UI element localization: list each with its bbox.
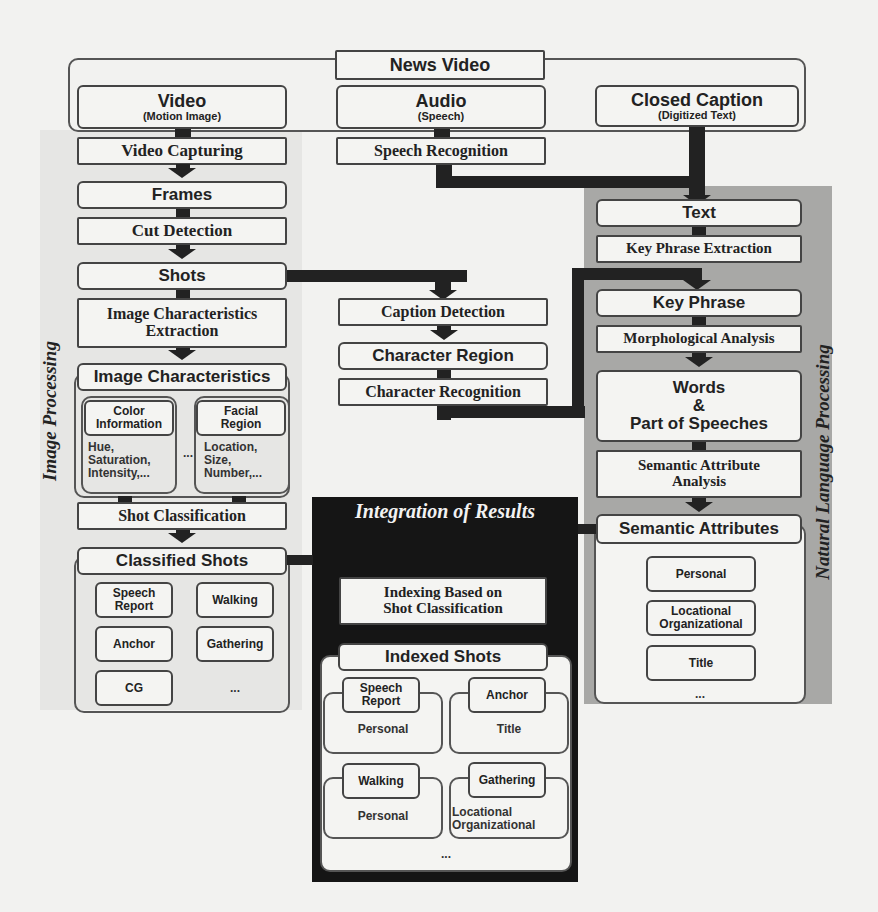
- class-cg: CG: [95, 670, 173, 706]
- classified-shots-label: Classified Shots: [116, 552, 248, 570]
- attr-personal: Personal: [646, 556, 756, 592]
- cg-label: CG: [125, 682, 143, 695]
- key-phrase-label: Key Phrase: [653, 294, 746, 312]
- words-pos-box: Words & Part of Speeches: [596, 370, 802, 442]
- walking-label: Walking: [212, 594, 258, 607]
- image-processing-label: Image Processing: [39, 331, 65, 491]
- facial-line2: Region: [221, 418, 262, 431]
- morphological-analysis-label: Morphological Analysis: [623, 331, 774, 347]
- indexed-shots-label: Indexed Shots: [385, 648, 501, 666]
- saa-line1: Semantic Attribute: [638, 458, 760, 474]
- frames-box: Frames: [77, 181, 287, 209]
- video-title: Video: [158, 92, 207, 111]
- closed-caption-subtitle: (Digitized Text): [658, 110, 736, 122]
- indexing-line2: Shot Classification: [383, 601, 503, 617]
- audio-title: Audio: [416, 92, 467, 111]
- speech-recognition-box: Speech Recognition: [336, 137, 546, 165]
- text-label: Text: [682, 204, 716, 222]
- indexed-tag-anchor-label: Anchor: [486, 689, 528, 702]
- attr-title: Title: [646, 645, 756, 681]
- arrow-to-shots: [168, 249, 196, 259]
- class-anchor: Anchor: [95, 626, 173, 662]
- attr-title-label: Title: [689, 657, 713, 670]
- indexed-tag-speech-report: Speech Report: [342, 677, 420, 713]
- class-speech-report: Speech Report: [95, 582, 173, 618]
- news-video-box: News Video: [335, 50, 545, 80]
- connector-crec-kp-h2: [572, 268, 702, 280]
- shot-classification-box: Shot Classification: [77, 502, 287, 530]
- ice-line2: Extraction: [146, 323, 219, 340]
- indexed-tag-walking: Walking: [342, 763, 420, 799]
- closed-caption-box: Closed Caption (Digitized Text): [595, 85, 799, 127]
- character-recognition-box: Character Recognition: [338, 378, 548, 406]
- key-phrase-box: Key Phrase: [596, 289, 802, 317]
- speech-recognition-label: Speech Recognition: [374, 143, 508, 160]
- connector-cr-crec: [437, 370, 451, 378]
- connector-audio-speech: [434, 129, 450, 137]
- arrow-to-character-region: [430, 330, 458, 340]
- frames-label: Frames: [152, 186, 212, 204]
- audio-source-box: Audio (Speech): [336, 85, 546, 129]
- indexed-value-personal-2: Personal: [323, 810, 443, 823]
- words-line2: &: [693, 397, 705, 415]
- integration-label: Integration of Results: [312, 500, 578, 528]
- character-recognition-label: Character Recognition: [365, 384, 521, 401]
- indexed-tag-gathering-label: Gathering: [479, 774, 536, 787]
- connector-shots-ice: [176, 290, 190, 298]
- connector-kp-ma: [692, 317, 706, 325]
- facial-detail-number: Number,...: [204, 467, 294, 480]
- video-source-box: Video (Motion Image): [77, 85, 287, 129]
- facial-region-box: Facial Region: [196, 400, 286, 436]
- anchor-label: Anchor: [113, 638, 155, 651]
- classified-shots-box: Classified Shots: [77, 547, 287, 575]
- audio-subtitle: (Speech): [418, 111, 464, 123]
- closed-caption-title: Closed Caption: [631, 91, 763, 110]
- video-capturing-label: Video Capturing: [121, 142, 243, 160]
- morphological-analysis-box: Morphological Analysis: [596, 325, 802, 353]
- connector-video-capturing: [175, 129, 191, 137]
- connector-words-saa: [692, 442, 706, 450]
- attr-organizational-label: Organizational: [659, 618, 742, 631]
- indexed-value-title: Title: [449, 723, 569, 736]
- connector-classified-integration: [287, 555, 313, 565]
- text-box: Text: [596, 199, 802, 227]
- color-detail-intensity: Intensity,...: [88, 467, 178, 480]
- indexed-tag-gathering: Gathering: [468, 762, 546, 798]
- class-gathering: Gathering: [196, 626, 274, 662]
- words-line1: Words: [673, 379, 726, 397]
- character-region-label: Character Region: [372, 347, 514, 365]
- semantic-attribute-analysis-box: Semantic Attribute Analysis: [596, 450, 802, 498]
- image-characteristics-box: Image Characteristics: [77, 363, 287, 391]
- video-subtitle: (Motion Image): [143, 111, 221, 123]
- indexed-tag-anchor: Anchor: [468, 677, 546, 713]
- connector-text-kpe: [692, 227, 706, 235]
- color-info-line2: Information: [96, 418, 162, 431]
- image-characteristics-extraction-box: Image Characteristics Extraction: [77, 298, 287, 348]
- connector-capture-frames: [176, 164, 190, 170]
- ice-line1: Image Characteristics: [107, 306, 258, 323]
- indexed-tag-report: Report: [362, 695, 401, 708]
- gathering-label: Gathering: [207, 638, 264, 651]
- saa-line2: Analysis: [672, 474, 726, 490]
- class-walking: Walking: [196, 582, 274, 618]
- connector-crec-kp-h1: [437, 406, 585, 418]
- arrow-to-words: [685, 357, 713, 367]
- attr-locational-organizational: Locational Organizational: [646, 600, 756, 636]
- character-region-box: Character Region: [338, 342, 548, 370]
- news-video-label: News Video: [390, 56, 491, 75]
- image-characteristics-label: Image Characteristics: [94, 368, 271, 386]
- indexed-value-personal-1: Personal: [323, 723, 443, 736]
- shots-box: Shots: [77, 262, 287, 290]
- connector-semantic-integration: [578, 524, 596, 534]
- color-details: Hue, Saturation, Intensity,...: [88, 441, 178, 481]
- connector-crec-kp-v2: [572, 268, 584, 418]
- words-line3: Part of Speeches: [630, 415, 768, 433]
- cut-detection-label: Cut Detection: [132, 222, 233, 240]
- indexed-value-locational: Locational Organizational: [452, 806, 572, 832]
- nlp-label: Natural Language Processing: [812, 342, 838, 582]
- connector-ice-ic: [176, 348, 190, 354]
- cut-detection-box: Cut Detection: [77, 217, 287, 245]
- indexing-line1: Indexing Based on: [384, 585, 502, 601]
- caption-detection-box: Caption Detection: [338, 298, 548, 326]
- classes-ellipsis: ...: [225, 682, 245, 695]
